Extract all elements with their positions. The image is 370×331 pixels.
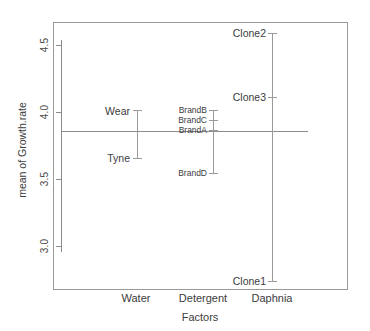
y-tick-label-3.0: 3.0 bbox=[39, 239, 50, 254]
factor-span-daphnia bbox=[272, 33, 273, 281]
level-label-branda: BrandA bbox=[179, 125, 207, 135]
y-axis-title: mean of Growth.rate bbox=[16, 102, 28, 198]
level-label-clone2: Clone2 bbox=[233, 27, 266, 39]
level-tick-clone2 bbox=[268, 33, 277, 34]
level-label-clone1: Clone1 bbox=[233, 275, 266, 287]
y-tick-mark-4.5 bbox=[56, 45, 61, 46]
x-axis-title: Factors bbox=[182, 311, 219, 323]
level-tick-wear bbox=[133, 110, 142, 111]
design-plot-figure: 4.5 4.0 3.5 3.0 mean of Growth.rate Wear… bbox=[0, 0, 370, 331]
level-label-tyne: Tyne bbox=[107, 152, 130, 164]
level-tick-branda bbox=[209, 130, 218, 131]
y-tick-label-3.5: 3.5 bbox=[39, 172, 50, 187]
factor-span-water bbox=[137, 110, 138, 158]
plot-panel-frame bbox=[53, 22, 348, 290]
level-tick-tyne bbox=[133, 158, 142, 159]
y-tick-mark-3.0 bbox=[56, 246, 61, 247]
level-label-wear: Wear bbox=[105, 105, 130, 117]
x-tick-label-water: Water bbox=[122, 292, 151, 304]
level-label-brandc: BrandC bbox=[178, 115, 207, 125]
level-tick-clone3 bbox=[268, 97, 277, 98]
level-tick-brandb bbox=[209, 110, 218, 111]
y-tick-label-4.0: 4.0 bbox=[39, 105, 50, 120]
level-tick-clone1 bbox=[268, 281, 277, 282]
level-tick-brandc bbox=[209, 120, 218, 121]
x-tick-label-daphnia: Daphnia bbox=[252, 292, 293, 304]
level-label-clone3: Clone3 bbox=[233, 91, 266, 103]
level-label-brandb: BrandB bbox=[179, 105, 207, 115]
y-tick-mark-3.5 bbox=[56, 179, 61, 180]
y-tick-mark-4.0 bbox=[56, 112, 61, 113]
x-tick-label-detergent: Detergent bbox=[179, 292, 227, 304]
y-tick-label-4.5: 4.5 bbox=[39, 38, 50, 53]
level-label-brandd: BrandD bbox=[178, 168, 207, 178]
level-tick-brandd bbox=[209, 173, 218, 174]
y-axis-line bbox=[61, 40, 62, 252]
